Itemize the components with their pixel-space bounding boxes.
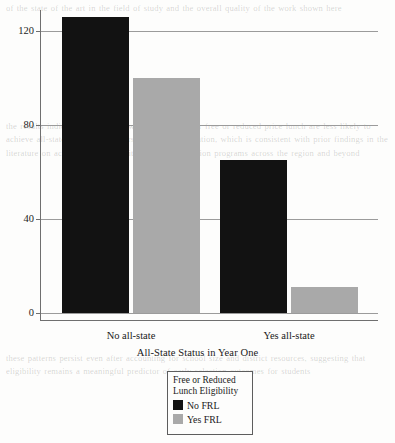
legend-title: Free or Reduced Lunch Eligibility [173, 375, 248, 398]
bar-yes-all-state-yes-frl [291, 287, 358, 313]
legend-label-0: No FRL [187, 400, 219, 411]
legend-swatch-icon-1 [173, 414, 183, 424]
x-tick-label-0: No all-state [71, 330, 191, 341]
legend-items: No FRLYes FRL [173, 399, 248, 426]
bar-no-all-state-no-frl [62, 17, 129, 313]
legend: Free or Reduced Lunch Eligibility No FRL… [167, 371, 253, 435]
figure-page: of the state of the art in the field of … [0, 0, 395, 443]
y-tick-label-120: 120 [0, 26, 34, 37]
bar-yes-all-state-no-frl [220, 160, 287, 313]
x-axis-title: All-State Status in Year One [0, 347, 395, 358]
legend-label-1: Yes FRL [187, 414, 222, 425]
legend-item-yes-frl: Yes FRL [173, 413, 248, 426]
y-tick-label-80: 80 [0, 120, 34, 131]
legend-item-no-frl: No FRL [173, 399, 248, 412]
bar-no-all-state-yes-frl [133, 78, 200, 313]
x-tick-label-1: Yes all-state [229, 330, 349, 341]
y-tick-label-0: 0 [0, 308, 34, 319]
x-axis-spine [40, 320, 378, 321]
legend-swatch-icon-0 [173, 400, 183, 410]
y-tick-label-40: 40 [0, 214, 34, 225]
plot-area [40, 10, 378, 320]
